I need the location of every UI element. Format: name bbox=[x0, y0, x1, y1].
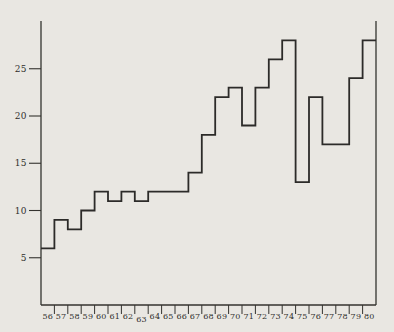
step-chart-figure: 5101520255657585960616263646566676869707… bbox=[0, 0, 394, 332]
x-tick-label: 56 bbox=[42, 312, 53, 321]
x-tick-label: 69 bbox=[217, 312, 228, 321]
x-tick-label: 58 bbox=[69, 312, 80, 321]
x-tick-label: 60 bbox=[96, 312, 107, 321]
step-line bbox=[41, 40, 376, 248]
x-tick-label: 65 bbox=[163, 312, 174, 321]
y-tick-label: 10 bbox=[15, 206, 27, 216]
x-tick-label: 79 bbox=[351, 312, 362, 321]
x-tick-label: 75 bbox=[297, 312, 308, 321]
x-tick-label: 80 bbox=[364, 312, 375, 321]
x-tick-label: 76 bbox=[310, 312, 321, 321]
x-tick-label: 74 bbox=[284, 312, 295, 321]
chart-canvas: 5101520255657585960616263646566676869707… bbox=[0, 0, 394, 332]
y-tick-label: 15 bbox=[15, 158, 27, 168]
x-tick-label: 73 bbox=[270, 312, 281, 321]
y-tick-label: 25 bbox=[15, 64, 27, 74]
x-tick-label: 78 bbox=[337, 312, 348, 321]
x-tick-label: 64 bbox=[150, 312, 161, 321]
x-tick-label: 77 bbox=[324, 312, 335, 321]
x-tick-label: 72 bbox=[257, 312, 268, 321]
x-tick-label: 71 bbox=[243, 312, 254, 321]
x-tick-label: 70 bbox=[230, 312, 241, 321]
x-tick-label: 67 bbox=[190, 312, 201, 321]
y-tick-label: 5 bbox=[21, 253, 27, 263]
x-tick-label: 57 bbox=[56, 312, 67, 321]
x-tick-label: 59 bbox=[83, 312, 94, 321]
x-tick-label: 66 bbox=[176, 312, 187, 321]
x-tick-label: 61 bbox=[109, 312, 120, 321]
y-tick-label: 20 bbox=[15, 111, 27, 121]
x-tick-label: 62 bbox=[123, 312, 134, 321]
x-tick-label: 68 bbox=[203, 312, 214, 321]
x-tick-label: 63 bbox=[136, 315, 147, 324]
